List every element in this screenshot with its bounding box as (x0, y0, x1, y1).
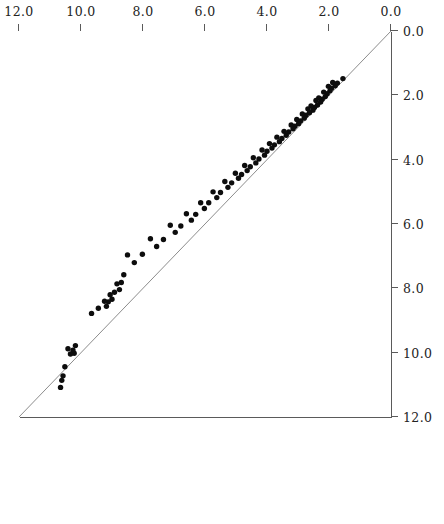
scatter-point (214, 195, 219, 200)
scatter-point (121, 272, 126, 277)
scatter-point (294, 117, 299, 122)
x-tick-label: 6.0 (194, 4, 215, 19)
scatter-point (62, 364, 67, 369)
plot-canvas (19, 31, 391, 417)
x-tick-label: 8.0 (132, 4, 153, 19)
scatter-point (189, 217, 194, 222)
scatter-point (274, 134, 279, 139)
x-tick-label: 2.0 (318, 4, 339, 19)
scatter-point (330, 80, 335, 85)
x-tick (266, 24, 267, 31)
scatter-point (202, 206, 207, 211)
scatter-point (140, 252, 145, 257)
y-tick (391, 287, 398, 288)
scatter-point (154, 244, 159, 249)
scatter-point (267, 141, 272, 146)
x-tick-label: 12.0 (4, 4, 33, 19)
scatter-point (89, 311, 94, 316)
x-tick-label: 10.0 (66, 4, 95, 19)
reference-line (19, 31, 391, 417)
scatter-point (244, 168, 249, 173)
scatter-point (210, 189, 215, 194)
scatter-point (125, 252, 130, 257)
scatter-point (104, 304, 109, 309)
y-tick-label: 12.0 (403, 410, 443, 425)
scatter-point (242, 163, 247, 168)
y-tick-label: 0.0 (403, 24, 443, 39)
figure-container: 0.02.04.06.08.010.012.0 0.02.04.06.08.01… (0, 0, 444, 524)
scatter-point (132, 260, 137, 265)
y-tick-label: 2.0 (403, 88, 443, 103)
scatter-point (281, 129, 286, 134)
scatter-point (288, 122, 293, 127)
scatter-point (107, 292, 112, 297)
scatter-point (193, 212, 198, 217)
scatter-point (326, 84, 331, 89)
scatter-point (305, 106, 310, 111)
y-tick (391, 223, 398, 224)
scatter-point (148, 236, 153, 241)
y-tick-label: 6.0 (403, 217, 443, 232)
scatter-point (114, 281, 119, 286)
x-tick (18, 24, 19, 31)
scatter-point (222, 179, 227, 184)
scatter-point (161, 237, 166, 242)
scatter-point (58, 385, 63, 390)
scatter-point (198, 200, 203, 205)
rotated-figure-group: 0.02.04.06.08.010.012.0 0.02.04.06.08.01… (0, 0, 444, 524)
scatter-point (218, 190, 223, 195)
y-tick (391, 416, 398, 417)
scatter-point (321, 89, 326, 94)
scatter-point (206, 200, 211, 205)
y-tick-label: 10.0 (403, 345, 443, 360)
scatter-point (117, 287, 122, 292)
plot-frame: 0.02.04.06.08.010.012.0 0.02.04.06.08.01… (20, 32, 392, 418)
y-tick-label: 8.0 (403, 281, 443, 296)
scatter-point (225, 185, 230, 190)
y-tick (391, 94, 398, 95)
scatter-point (251, 155, 256, 160)
scatter-point (173, 230, 178, 235)
y-tick (391, 159, 398, 160)
scatter-point (233, 170, 238, 175)
y-tick-label: 4.0 (403, 152, 443, 167)
scatter-point (262, 152, 267, 157)
scatter-point (168, 223, 173, 228)
scatter-point (340, 76, 345, 81)
scatter-point (68, 351, 73, 356)
scatter-point (59, 378, 64, 383)
x-tick (328, 24, 329, 31)
one-to-one-line (19, 31, 391, 417)
scatter-point (259, 147, 264, 152)
x-tick-label: 4.0 (256, 4, 277, 19)
scatter-point (184, 211, 189, 216)
scatter-point (96, 306, 101, 311)
x-tick-label: 0.0 (380, 4, 401, 19)
scatter-point (300, 111, 305, 116)
scatter-point (229, 180, 234, 185)
x-tick (142, 24, 143, 31)
scatter-point (253, 160, 258, 165)
scatter-point (102, 299, 107, 304)
scatter-point (65, 346, 70, 351)
scatter-point (236, 176, 241, 181)
scatter-point (313, 98, 318, 103)
x-tick (80, 24, 81, 31)
y-tick (391, 352, 398, 353)
y-tick (391, 30, 398, 31)
x-tick (204, 24, 205, 31)
scatter-point (178, 223, 183, 228)
